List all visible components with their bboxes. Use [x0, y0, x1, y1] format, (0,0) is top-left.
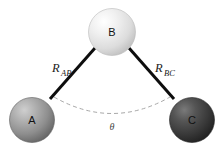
- atom-c-label: C: [188, 114, 196, 126]
- bond-label-bc-main: R: [154, 61, 163, 75]
- atom-b-label: B: [108, 26, 115, 38]
- bond-label-ab: R AB: [51, 61, 71, 78]
- bond-label-bc: R BC: [154, 61, 175, 78]
- atom-b: B: [89, 9, 136, 56]
- bond-label-bc-sub: BC: [164, 68, 175, 78]
- atom-a: A: [10, 98, 55, 143]
- angle-arc: [54, 97, 170, 114]
- angle-theta-label: θ: [110, 121, 115, 132]
- atom-a-label: A: [28, 114, 36, 126]
- figure-canvas: A B C R AB R BC θ: [0, 0, 224, 152]
- bond-label-ab-main: R: [51, 61, 60, 75]
- molecule-geometry-figure: A B C R AB R BC θ: [0, 0, 224, 152]
- bond-label-ab-sub: AB: [60, 68, 71, 78]
- atom-c: C: [170, 98, 215, 143]
